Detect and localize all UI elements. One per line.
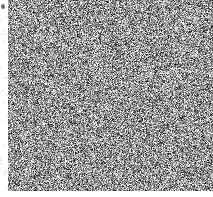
left-margin-speckle — [0, 0, 8, 197]
random-noise-field — [8, 0, 213, 191]
noise-image-root — [0, 0, 213, 197]
top-left-dark-speck-icon — [1, 4, 5, 9]
